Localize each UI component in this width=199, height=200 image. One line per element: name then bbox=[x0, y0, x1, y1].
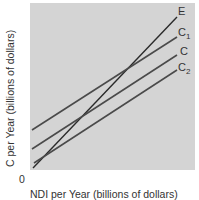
label-e: E bbox=[178, 5, 185, 17]
label-c: C bbox=[180, 45, 188, 57]
x-axis-label: NDI per Year (billions of dollars) bbox=[30, 188, 178, 200]
origin-label: 0 bbox=[19, 173, 25, 185]
consumption-function-chart: E C1 C C2 0 NDI per Year (billions of do… bbox=[0, 0, 199, 200]
y-axis-label: C per Year (billions of dollars) bbox=[4, 30, 16, 167]
